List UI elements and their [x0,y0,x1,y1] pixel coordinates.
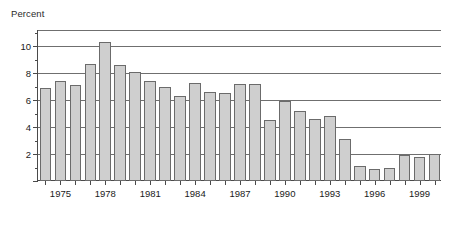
bar-1976 [70,85,82,181]
x-tick-label-1990: 1990 [274,188,295,199]
y-tick-10 [33,46,38,47]
x-tick-1992 [315,181,316,185]
bar-1989 [264,120,276,181]
x-tick-1979 [120,181,121,185]
bar-1977 [85,64,97,181]
y-tick-4 [33,127,38,128]
y-minor-tick-7 [35,87,38,88]
bar-1975 [55,81,67,181]
y-minor-tick-3 [35,141,38,142]
y-tick-label-6: 6 [26,95,31,106]
bar-1983 [174,96,186,181]
bar-1974 [40,88,52,181]
y-tick-label-10: 10 [20,41,31,52]
y-tick-0 [33,181,38,182]
bar-1981 [144,81,156,181]
x-tick-1993 [330,181,331,185]
x-tick-1989 [270,181,271,185]
bar-1984 [189,83,201,181]
bar-1993 [324,116,336,181]
gridline-y-10 [38,46,441,47]
x-tick-1997 [390,181,391,185]
x-tick-1986 [225,181,226,185]
x-tick-1994 [345,181,346,185]
x-tick-1991 [300,181,301,185]
gridline-y-8 [38,73,441,74]
bar-1999 [414,157,426,181]
x-tick-1990 [285,181,286,185]
x-tick-1998 [405,181,406,185]
plot-area: 2468101975197819811984198719901993199619… [37,30,441,181]
x-tick-1975 [60,181,61,185]
x-tick-1987 [240,181,241,185]
y-minor-tick-1 [35,168,38,169]
x-tick-1999 [420,181,421,185]
bar-1990 [279,101,291,181]
x-tick-1974 [45,181,46,185]
bar-1980 [129,72,141,181]
x-tick-1985 [210,181,211,185]
bar-1979 [114,65,126,181]
x-tick-1978 [105,181,106,185]
plot-top-border [38,30,441,31]
x-tick-1996 [375,181,376,185]
y-minor-tick-5 [35,114,38,115]
y-tick-6 [33,100,38,101]
x-tick-label-1996: 1996 [364,188,385,199]
y-tick-label-2: 2 [26,149,31,160]
y-tick-label-8: 8 [26,68,31,79]
bar-1997 [384,168,396,181]
x-tick-2000 [435,181,436,185]
bar-1987 [234,84,246,181]
bar-2000 [429,154,441,181]
bar-1986 [219,93,231,181]
x-tick-1983 [180,181,181,185]
bar-1991 [294,111,306,181]
y-minor-tick-9 [35,60,38,61]
bar-1998 [399,155,411,181]
x-tick-label-1978: 1978 [95,188,116,199]
x-tick-label-1993: 1993 [319,188,340,199]
y-minor-tick-11 [35,33,38,34]
x-tick-1988 [255,181,256,185]
x-tick-1976 [75,181,76,185]
x-tick-label-1975: 1975 [50,188,71,199]
x-tick-label-1999: 1999 [409,188,430,199]
bar-1994 [339,139,351,181]
bar-1996 [369,169,381,181]
x-tick-1982 [165,181,166,185]
bar-1992 [309,119,321,181]
x-tick-label-1984: 1984 [185,188,206,199]
bar-1978 [99,42,111,181]
x-tick-1981 [150,181,151,185]
x-tick-1984 [195,181,196,185]
x-tick-label-1987: 1987 [229,188,250,199]
bar-1995 [354,166,366,181]
x-tick-1980 [135,181,136,185]
x-tick-1977 [90,181,91,185]
bar-1985 [204,92,216,181]
chart-figure: Percent 24681019751978198119841987199019… [0,0,452,225]
plot-inner: 2468101975197819811984198719901993199619… [38,30,441,181]
y-tick-2 [33,154,38,155]
bar-1988 [249,84,261,181]
x-tick-label-1981: 1981 [140,188,161,199]
y-tick-8 [33,73,38,74]
x-tick-1995 [360,181,361,185]
y-tick-label-4: 4 [26,122,31,133]
bar-1982 [159,87,171,181]
y-axis-label: Percent [11,8,44,19]
